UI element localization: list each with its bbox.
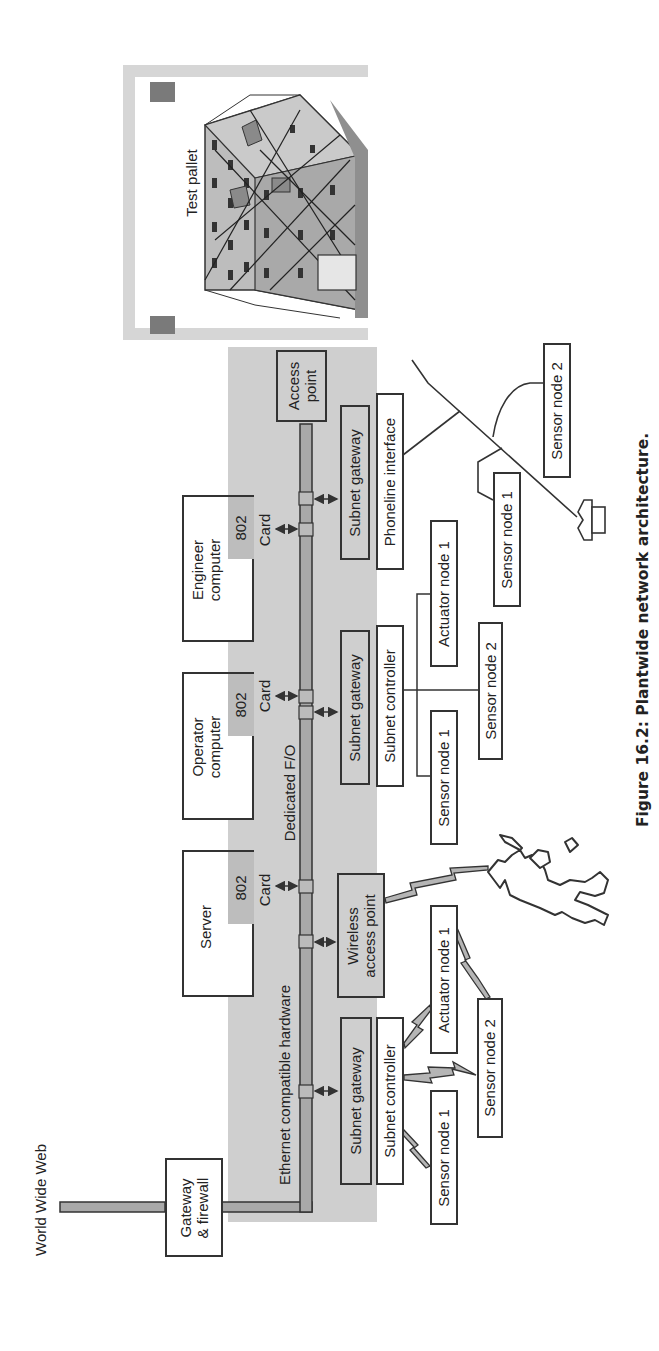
- middle-sensor-node-2[interactable]: Sensor node 2: [478, 622, 503, 760]
- test-pallet-icon: [123, 65, 368, 340]
- internet-label: World Wide Web: [33, 1130, 49, 1270]
- engineer-card-label: Card: [256, 510, 274, 550]
- backbone-bus: [299, 424, 313, 1212]
- gateway-firewall-box[interactable]: Gateway & firewall: [165, 1158, 223, 1257]
- middle-actuator-node-1[interactable]: Actuator node 1: [430, 520, 458, 667]
- engineer-computer-box[interactable]: Engineercomputer 802: [182, 495, 254, 642]
- access-point-box[interactable]: Accesspoint: [276, 350, 327, 422]
- fiber-optic-label: Dedicated F/O: [282, 738, 298, 848]
- ethernet-label: Ethernet compatible hardware: [276, 960, 294, 1210]
- operator-computer-box[interactable]: Operatorcomputer 802: [182, 672, 254, 820]
- operator-card-label: Card: [256, 676, 274, 716]
- figure-caption: Figure 16.2: Plantwide network architect…: [633, 340, 653, 920]
- phoneline-sensor-node-2[interactable]: Sensor node 2: [543, 343, 571, 478]
- server-box[interactable]: Server 802: [182, 850, 254, 997]
- telephone-icon: [578, 500, 605, 540]
- left-actuator-node-1[interactable]: Actuator node 1: [430, 905, 458, 1054]
- left-subnet-gateway[interactable]: Subnet gateway: [340, 1017, 372, 1185]
- test-pallet-label: Test pallet: [184, 140, 200, 225]
- middle-subnet-gateway[interactable]: Subnet gateway: [340, 630, 370, 785]
- wireless-access-point-box[interactable]: Wirelessaccess point: [337, 873, 385, 998]
- left-subnet-controller[interactable]: Subnet controller: [376, 1017, 404, 1185]
- left-sensor-node-1[interactable]: Sensor node 1: [430, 1090, 458, 1225]
- bus-gateway-arrows: [315, 499, 337, 1091]
- phoneline-subnet-gateway[interactable]: Subnet gateway: [340, 405, 370, 560]
- phoneline-interface-box[interactable]: Phoneline interface: [376, 393, 404, 570]
- server-card-label: Card: [256, 870, 274, 910]
- middle-subnet-controller[interactable]: Subnet controller: [376, 625, 404, 787]
- walking-worker-icon: [488, 835, 608, 925]
- diagram-connections: [0, 0, 659, 1351]
- phoneline-sensor-node-1[interactable]: Sensor node 1: [493, 472, 521, 607]
- middle-sensor-node-1[interactable]: Sensor node 1: [430, 710, 458, 845]
- left-sensor-node-2[interactable]: Sensor node 2: [477, 998, 503, 1138]
